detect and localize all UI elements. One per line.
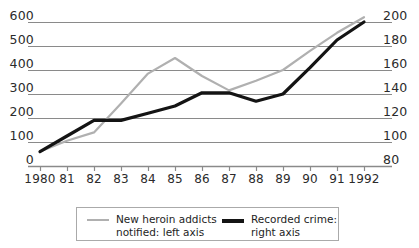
series-line-new-heroin-addicts — [40, 17, 364, 151]
y-axis-left-tick-label: 100 — [0, 128, 34, 143]
y-axis-left-tick-label: 400 — [0, 56, 34, 71]
gray-line-swatch — [87, 219, 109, 221]
legend-item-recorded-crime: Recorded crime: right axis — [222, 213, 337, 238]
y-axis-left-tick-label: 300 — [0, 80, 34, 95]
black-line-swatch — [222, 219, 244, 223]
y-axis-right-tick-label: 180 — [383, 32, 417, 47]
legend-item-label: New heroin addicts notified: left axis — [116, 213, 217, 238]
y-axis-left-tick-label: 500 — [0, 32, 34, 47]
series-line-recorded-crime — [40, 22, 364, 152]
y-axis-left-tick-label: 0 — [0, 152, 34, 167]
y-axis-left-tick-label: 200 — [0, 104, 34, 119]
y-axis-right-tick-label: 100 — [383, 128, 417, 143]
y-axis-right-tick-label: 160 — [383, 56, 417, 71]
chart-container: 0100200300400500600 80100120140160180200… — [0, 0, 419, 248]
x-axis-tick-label: 1992 — [344, 172, 384, 186]
y-axis-right-tick-label: 120 — [383, 104, 417, 119]
y-axis-right-tick-label: 200 — [383, 8, 417, 23]
y-axis-left-tick-label: 600 — [0, 8, 34, 23]
y-axis-right-tick-label: 80 — [383, 152, 417, 167]
legend-item-label: Recorded crime: right axis — [251, 213, 337, 238]
y-axis-right-tick-label: 140 — [383, 80, 417, 95]
chart-legend: New heroin addicts notified: left axis R… — [76, 207, 339, 241]
legend-item-new-heroin-addicts: New heroin addicts notified: left axis — [87, 213, 217, 238]
